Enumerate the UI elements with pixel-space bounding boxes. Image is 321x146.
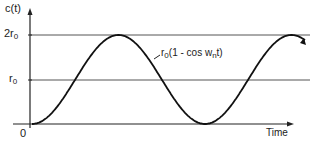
annotation-leader — [154, 55, 160, 59]
chart-canvas — [0, 0, 321, 146]
tick-label-2r0: 2r0 — [4, 28, 18, 41]
curve-annotation: r0(1 - cos wnt) — [161, 48, 223, 60]
x-axis-arrow-icon — [287, 122, 294, 127]
y-axis-label: c(t) — [5, 3, 21, 14]
x-axis-label: Time — [266, 128, 288, 138]
tick-label-r0: r0 — [9, 73, 17, 86]
y-axis-arrow-icon — [28, 8, 33, 15]
origin-label: 0 — [20, 128, 26, 139]
